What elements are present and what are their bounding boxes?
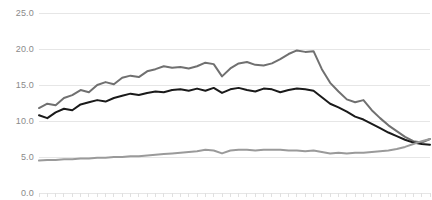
series-line-middle-series	[39, 88, 430, 145]
y-axis-tick-label: 25.0	[0, 8, 34, 18]
y-axis-tick-label: 5.0	[0, 152, 34, 162]
plot-area	[0, 0, 432, 200]
y-axis-tick-label: 10.0	[0, 116, 34, 126]
line-chart: 0.05.010.015.020.025.0	[0, 0, 432, 200]
y-axis-tick-label: 0.0	[0, 188, 34, 198]
series-lines	[39, 50, 430, 160]
y-axis-tick-label: 20.0	[0, 44, 34, 54]
series-line-upper-series	[39, 50, 430, 142]
gridlines	[39, 13, 430, 193]
y-axis-tick-label: 15.0	[0, 80, 34, 90]
x-axis-ticks	[39, 193, 430, 197]
